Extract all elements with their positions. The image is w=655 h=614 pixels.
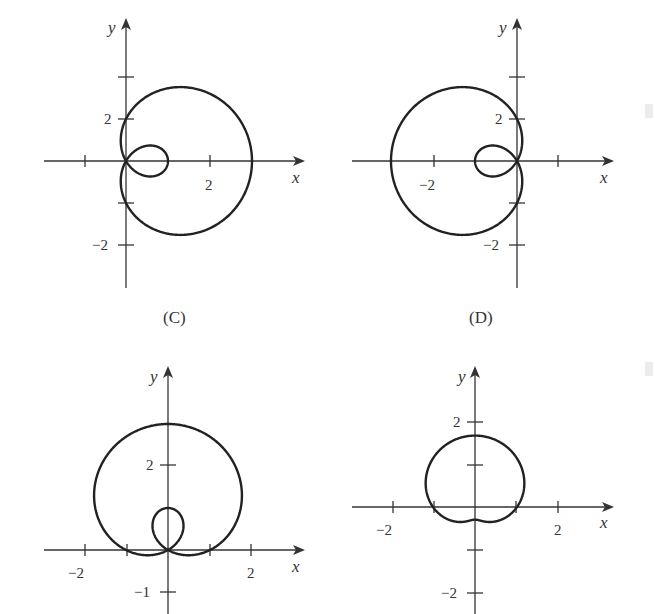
y-tick-label: 2	[104, 111, 112, 127]
panel-f: −2 2 2 −2 x y	[352, 367, 612, 614]
y-tick-label: −1	[134, 584, 150, 600]
scan-artifact	[645, 362, 653, 376]
x-axis-label: x	[291, 168, 300, 187]
panel-caption: (D)	[469, 308, 493, 327]
y-tick-label: 2	[146, 457, 154, 473]
x-tick-label: 2	[205, 177, 213, 193]
y-tick-label: −2	[441, 585, 457, 601]
y-tick-label: −2	[483, 237, 499, 253]
y-tick-label: 2	[495, 111, 503, 127]
panel-d: −2 2 −2 x y (D)	[352, 18, 612, 327]
y-axis-label: y	[106, 18, 116, 37]
x-axis-label: x	[599, 168, 608, 187]
y-tick-label: −2	[92, 237, 108, 253]
x-tick-label: 2	[247, 565, 255, 581]
y-axis-label: y	[148, 367, 158, 386]
panel-caption: (C)	[163, 308, 186, 327]
limacon-figure: 2 2 −2 x y (C) −2 2 −2 x y (D) −2 2	[0, 0, 655, 614]
panel-c: 2 2 −2 x y (C)	[44, 18, 303, 327]
x-axis-label: x	[291, 557, 300, 576]
panel-e: −2 2 2 −1 x y	[44, 367, 303, 614]
x-tick-label: −2	[419, 177, 435, 193]
y-tick-label: 2	[453, 414, 461, 430]
y-axis-label: y	[456, 367, 466, 386]
x-axis-label: x	[599, 513, 608, 532]
scan-artifact	[645, 104, 653, 118]
x-tick-label: −2	[376, 522, 392, 538]
x-tick-label: −2	[68, 565, 84, 581]
x-tick-label: 2	[554, 522, 562, 538]
y-axis-label: y	[497, 18, 507, 37]
